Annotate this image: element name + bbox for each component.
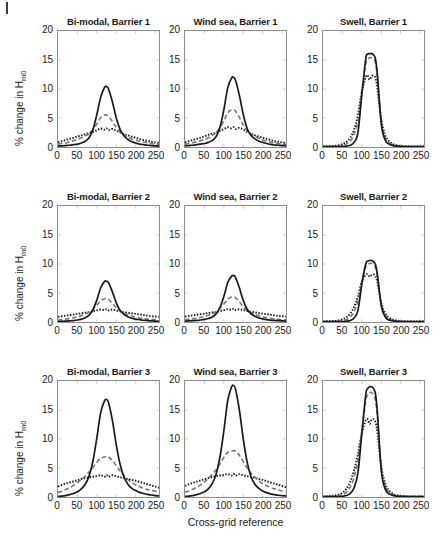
x-tick-label: 200 [393,325,410,336]
series-line-5000-m [58,456,159,492]
x-tick-labels: 050100150200250 [322,325,425,338]
series-line-5000-m [323,57,424,146]
y-tick-label: 0 [302,493,318,503]
y-axis-title-sub: m0 [19,71,28,81]
x-tick-label: 200 [255,150,272,161]
y-tick-labels: 20151050 [37,205,53,323]
y-tick-label: 10 [302,259,318,269]
x-tick-label: 50 [336,150,347,161]
x-tick-label: 200 [128,150,145,161]
series-line-5000-m [323,392,424,496]
x-tick-labels: 050100150200250 [57,500,160,513]
series-line-5000-m [323,263,424,321]
x-tick-label: 100 [215,150,232,161]
panel-title: Swell, Barrier 3 [322,366,425,377]
x-tick-label: 150 [373,150,390,161]
x-tick-labels: 050100150200250 [184,325,287,338]
x-tick-label: 250 [413,325,430,336]
plot-area [184,30,287,148]
panel-title: Bi-modal, Barrier 3 [57,366,160,377]
x-tick-label: 0 [319,325,325,336]
scan-corner-mark [6,2,8,14]
x-tick-label: 150 [373,325,390,336]
y-tick-label: 5 [302,114,318,124]
x-tick-label: 250 [148,325,165,336]
x-tick-label: 200 [255,500,272,511]
y-tick-label: 0 [302,143,318,153]
y-axis-title-row1: % change in Hm0 [14,71,28,146]
y-tick-labels: 20151050 [164,30,180,148]
series-line-5000-m [185,110,286,145]
plot-area [184,205,287,323]
y-tick-labels: 20151050 [164,380,180,498]
x-tick-label: 0 [319,150,325,161]
y-tick-label: 20 [302,25,318,35]
x-tick-label: 200 [128,325,145,336]
x-axis-title: Cross-grid reference [184,516,287,528]
x-tick-label: 50 [198,150,209,161]
y-tick-label: 10 [164,259,180,269]
x-tick-label: 0 [319,500,325,511]
x-tick-label: 100 [88,150,105,161]
x-tick-label: 200 [255,325,272,336]
x-tick-label: 0 [181,150,187,161]
plot-area [57,30,160,148]
y-tick-label: 15 [302,405,318,415]
y-tick-label: 15 [37,230,53,240]
y-axis-title-main: % change in H [14,256,25,321]
x-tick-label: 250 [148,150,165,161]
y-tick-label: 20 [164,25,180,35]
plot-area [322,205,425,323]
y-tick-label: 20 [302,375,318,385]
y-axis-title-main: % change in H [14,431,25,496]
x-tick-labels: 050100150200250 [184,500,287,513]
y-tick-label: 0 [164,493,180,503]
x-tick-label: 0 [54,325,60,336]
x-tick-label: 0 [181,325,187,336]
x-tick-label: 50 [336,500,347,511]
figure-root: % change in Hm0 % change in Hm0 % change… [0,0,446,542]
x-tick-label: 100 [215,500,232,511]
y-axis-title-sub: m0 [19,246,28,256]
y-tick-label: 5 [37,114,53,124]
y-tick-label: 5 [164,289,180,299]
x-tick-label: 0 [54,500,60,511]
x-tick-label: 250 [148,500,165,511]
y-axis-title-row3: % change in Hm0 [14,421,28,496]
y-tick-labels: 20151050 [37,30,53,148]
series-line-1000-m [323,260,424,321]
y-tick-label: 10 [164,434,180,444]
x-tick-labels: 050100150200250 [57,150,160,163]
x-tick-label: 50 [198,325,209,336]
y-tick-label: 20 [37,375,53,385]
y-axis-title-row2: % change in Hm0 [14,246,28,321]
x-tick-label: 100 [88,325,105,336]
series-line-10000-m [58,309,159,317]
x-tick-label: 250 [275,500,292,511]
x-tick-label: 150 [108,500,125,511]
y-tick-label: 15 [37,405,53,415]
x-tick-label: 250 [275,150,292,161]
plot-area [184,380,287,498]
y-axis-title-sub: m0 [19,421,28,431]
y-tick-label: 5 [302,289,318,299]
x-tick-label: 150 [108,325,125,336]
x-tick-label: 150 [235,150,252,161]
y-tick-label: 20 [302,200,318,210]
y-tick-label: 20 [37,25,53,35]
x-tick-label: 50 [71,500,82,511]
series-line-1000-m [323,54,424,147]
y-tick-label: 0 [37,143,53,153]
x-tick-label: 0 [181,500,187,511]
y-tick-labels: 20151050 [302,380,318,498]
x-tick-labels: 050100150200250 [57,325,160,338]
y-tick-label: 15 [164,55,180,65]
y-tick-labels: 20151050 [302,205,318,323]
x-tick-label: 50 [336,325,347,336]
y-tick-label: 5 [37,289,53,299]
y-tick-label: 20 [37,200,53,210]
x-tick-label: 100 [353,500,370,511]
y-tick-label: 15 [302,230,318,240]
y-tick-label: 10 [302,84,318,94]
plot-area [57,205,160,323]
